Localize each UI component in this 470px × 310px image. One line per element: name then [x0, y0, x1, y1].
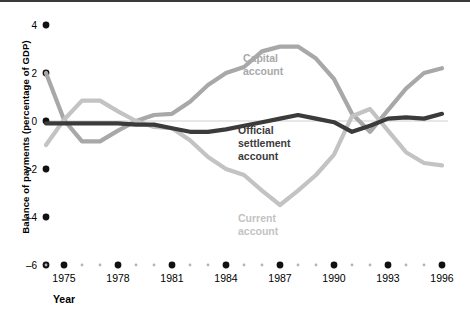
x-axis-minor-tick-dot — [135, 264, 138, 267]
x-axis-minor-tick-dot — [369, 264, 372, 267]
y-axis-tick-label: –2 — [26, 164, 38, 175]
y-axis-tick-label: 4 — [31, 20, 37, 31]
x-axis-minor-tick-dot — [45, 264, 48, 267]
x-axis-tick-dot — [115, 262, 122, 269]
x-axis-tick-label: 1996 — [430, 272, 454, 284]
x-axis-tick-dot — [385, 262, 392, 269]
x-axis-tick-label: 1975 — [52, 272, 76, 284]
x-axis-tick-dot — [331, 262, 338, 269]
x-axis-minor-tick-dot — [189, 264, 192, 267]
series-label-line: Capital — [243, 52, 278, 64]
x-axis-tick-label: 1984 — [214, 272, 238, 284]
series-label-line: account — [238, 150, 279, 162]
y-axis-tick-dot — [43, 166, 50, 173]
x-axis-minor-tick-dot — [351, 264, 354, 267]
x-axis-tick-label: 1981 — [160, 272, 184, 284]
series-label-official-settlement-account: Officialsettlementaccount — [238, 124, 291, 162]
y-axis-tick-label: –6 — [26, 260, 38, 271]
x-axis-minor-tick-dot — [81, 264, 84, 267]
x-axis-tick-label: 1978 — [106, 272, 130, 284]
series-label-current-account: Currentaccount — [238, 212, 279, 237]
x-axis-minor-tick-dot — [207, 264, 210, 267]
x-axis-tick-label: 1990 — [322, 272, 346, 284]
series-label-line: account — [238, 225, 279, 237]
series-label-line: settlement — [238, 137, 291, 149]
x-axis-minor-tick-dot — [153, 264, 156, 267]
x-axis-minor-tick-dot — [423, 264, 426, 267]
series-label-line: Current — [238, 212, 276, 224]
generated-chart-graphics: 420–2–4–61975197819811984198719901993199… — [26, 20, 454, 305]
x-axis-tick-label: 1993 — [376, 272, 400, 284]
y-axis-tick-label: 2 — [31, 68, 37, 79]
x-axis-minor-tick-dot — [99, 264, 102, 267]
series-label-line: Official — [238, 124, 274, 136]
x-axis-tick-dot — [439, 262, 446, 269]
x-axis-tick-dot — [223, 262, 230, 269]
series-label-capital-account: Capitalaccount — [243, 52, 284, 77]
plot-area: 420–2–4–61975197819811984198719901993199… — [0, 0, 470, 310]
series-label-line: account — [243, 65, 284, 77]
x-axis-minor-tick-dot — [261, 264, 264, 267]
x-axis-minor-tick-dot — [243, 264, 246, 267]
x-axis-tick-label: 1987 — [268, 272, 292, 284]
y-axis-tick-dot — [43, 22, 50, 29]
x-axis-minor-tick-dot — [315, 264, 318, 267]
balance-of-payments-chart: Balance of payments (percentage of GDP) … — [0, 0, 470, 310]
x-axis-title: Year — [53, 293, 75, 305]
x-axis-tick-dot — [169, 262, 176, 269]
x-axis-tick-dot — [277, 262, 284, 269]
x-axis-tick-dot — [61, 262, 68, 269]
y-axis-tick-label: –4 — [26, 212, 38, 223]
y-axis-tick-label: 0 — [31, 116, 37, 127]
x-axis-minor-tick-dot — [405, 264, 408, 267]
y-axis-tick-dot — [43, 214, 50, 221]
x-axis-minor-tick-dot — [297, 264, 300, 267]
